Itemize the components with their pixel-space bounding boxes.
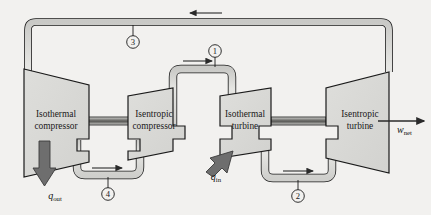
device-label-isothermal-compressor-line2: compressor (34, 121, 78, 131)
shaft-compressors (84, 117, 134, 125)
work-net-label: wnet (397, 124, 412, 136)
device-label-isentropic-compressor-line1: Isentropic (135, 109, 173, 119)
shaft-turbines (271, 117, 326, 125)
state-number-3: 3 (131, 37, 135, 47)
state-number-2: 2 (296, 191, 300, 201)
state-marker-3: 3 (127, 25, 140, 48)
heat-out-label: qout (48, 190, 62, 202)
state-marker-1: 1 (209, 45, 222, 67)
diagram-canvas: Isothermal compressor Isentropic compres… (0, 0, 431, 215)
state-number-1: 1 (213, 46, 217, 56)
pipe-lower-right (265, 140, 332, 178)
cycle-schematic: Isothermal compressor Isentropic compres… (0, 0, 431, 215)
state-marker-4: 4 (102, 177, 115, 200)
device-label-isentropic-turbine-line1: Isentropic (341, 109, 379, 119)
device-label-isentropic-turbine-line2: turbine (347, 121, 374, 131)
device-label-isothermal-turbine-line1: Isothermal (225, 109, 265, 119)
device-isentropic-turbine[interactable]: Isentropic turbine (326, 72, 389, 173)
state-number-4: 4 (106, 189, 111, 199)
state-marker-2: 2 (292, 180, 305, 202)
device-label-isothermal-turbine-line2: turbine (232, 121, 259, 131)
device-label-isothermal-compressor-line1: Isothermal (36, 109, 76, 119)
device-label-isentropic-compressor-line2: compressor (132, 121, 176, 131)
device-isothermal-compressor[interactable]: Isothermal compressor (24, 69, 89, 177)
device-isothermal-turbine[interactable]: Isothermal turbine (220, 88, 271, 158)
